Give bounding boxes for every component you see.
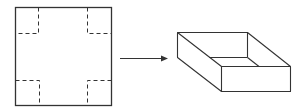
arrow-head-icon — [161, 56, 168, 62]
fold-line-bottom-right — [88, 81, 112, 106]
fold-line-bottom-left — [16, 81, 40, 106]
diagram-svg — [0, 0, 301, 108]
diagram-canvas — [0, 0, 301, 108]
open-box — [178, 33, 291, 92]
fold-line-top-right — [88, 8, 112, 34]
transform-arrow — [120, 56, 168, 62]
box-front-wall — [222, 67, 291, 92]
box-top-rim — [178, 33, 291, 67]
sheet-outline — [16, 8, 112, 106]
fold-lines — [16, 8, 112, 106]
fold-line-top-left — [16, 8, 39, 34]
box-inner-floor-right — [248, 58, 260, 67]
flat-sheet — [16, 8, 112, 106]
